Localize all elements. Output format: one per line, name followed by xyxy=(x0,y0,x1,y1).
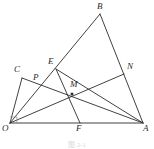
geometry-figure: O A B C E F M N P 图 2-1 xyxy=(0,0,154,149)
vertex-label-B: B xyxy=(97,2,103,11)
figure-caption: 图 2-1 xyxy=(0,141,154,149)
vertex-label-F: F xyxy=(76,124,82,133)
segments-group xyxy=(10,14,143,123)
vertex-label-M: M xyxy=(70,80,78,89)
points-group xyxy=(71,93,74,96)
vertex-label-E: E xyxy=(48,57,54,66)
vertex-label-O: O xyxy=(2,124,9,133)
vertex-label-P: P xyxy=(33,73,39,82)
point-M-dot xyxy=(71,93,74,96)
segment-side-BA xyxy=(100,14,143,123)
segment-cevian-EF xyxy=(56,69,80,123)
segment-side-OB xyxy=(10,14,100,123)
vertex-label-A: A xyxy=(143,124,149,133)
vertex-label-C: C xyxy=(14,65,20,74)
segment-cevian-CA xyxy=(22,78,143,123)
segment-cevian-ON xyxy=(10,74,124,123)
segment-cevian-EA xyxy=(56,69,143,123)
vertex-label-N: N xyxy=(127,62,133,71)
